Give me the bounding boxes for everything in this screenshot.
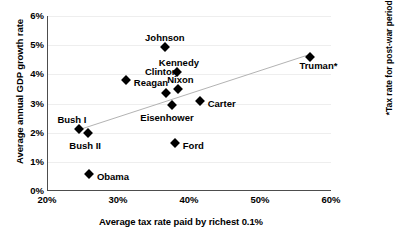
data-point-label: Reagan: [134, 78, 168, 88]
x-tick-label: 40%: [169, 195, 209, 205]
scatter-chart: Average annual GDP growth rate Average t…: [0, 0, 397, 243]
data-point-label: Carter: [208, 99, 236, 109]
data-point-label: Bush II: [69, 141, 101, 151]
data-point-label: Truman*: [299, 61, 337, 71]
y-tick-label: 2%: [14, 128, 44, 138]
data-point-label: Bush I: [57, 115, 86, 125]
y-tick-label: 5%: [14, 40, 44, 50]
y-tick-label: 4%: [14, 69, 44, 79]
x-tick-label: 20%: [27, 195, 67, 205]
x-tick-label: 60%: [311, 195, 351, 205]
x-axis-title: Average tax rate paid by richest 0.1%: [46, 216, 316, 227]
data-point-label: Eisenhower: [140, 113, 193, 123]
gridline: [48, 104, 331, 105]
gridline: [48, 45, 331, 46]
data-point-label: Obama: [97, 172, 129, 182]
plot-area: [47, 16, 331, 191]
y-tick-label: 6%: [14, 11, 44, 21]
gridline: [48, 162, 331, 163]
data-point-label: Ford: [183, 141, 204, 151]
gridline: [48, 16, 331, 17]
x-tick-label: 50%: [240, 195, 280, 205]
x-tick-label: 30%: [98, 195, 138, 205]
footnote-annotation: *Tax rate for post-war period only.: [384, 0, 394, 127]
y-tick-label: 1%: [14, 157, 44, 167]
data-point-label: Clinton: [145, 67, 178, 77]
y-tick-label: 3%: [14, 99, 44, 109]
y-axis-title: Average annual GDP growth rate: [14, 2, 25, 182]
data-point-label: Johnson: [145, 33, 185, 43]
